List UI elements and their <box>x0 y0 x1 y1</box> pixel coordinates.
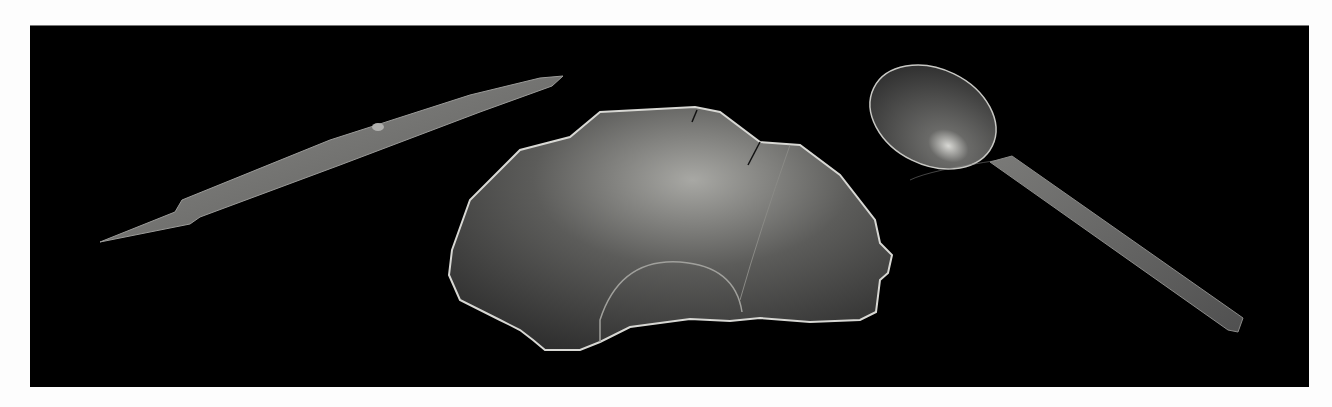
wooden-bowl-fragment <box>449 107 892 350</box>
artifact-photo <box>0 0 1332 407</box>
spoon <box>853 45 1243 332</box>
